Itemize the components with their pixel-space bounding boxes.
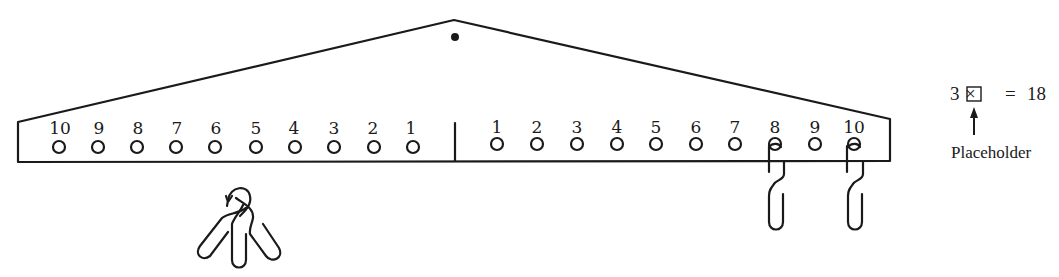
equation-equals: = — [1005, 83, 1016, 104]
right-label: 8 — [770, 117, 781, 137]
hole — [407, 141, 419, 153]
hole — [368, 141, 380, 153]
hook-group-left — [198, 188, 280, 267]
hole — [53, 141, 65, 153]
equation-factor: 3 — [950, 83, 960, 104]
left-arm-holes — [53, 141, 419, 153]
pivot-dot — [451, 33, 459, 41]
hole — [289, 141, 301, 153]
hole — [531, 138, 543, 150]
hole — [729, 138, 741, 150]
hole — [690, 138, 702, 150]
right-label: 3 — [572, 117, 583, 137]
hole — [250, 141, 262, 153]
hole — [491, 138, 503, 150]
left-label: 9 — [94, 118, 105, 138]
hole — [650, 138, 662, 150]
right-label: 10 — [843, 117, 865, 137]
left-label: 3 — [329, 118, 340, 138]
right-label: 2 — [532, 117, 543, 137]
left-label: 7 — [172, 118, 183, 138]
left-label: 8 — [133, 118, 144, 138]
right-label: 6 — [691, 117, 702, 137]
hole — [809, 138, 821, 150]
hole — [571, 138, 583, 150]
right-label: 4 — [612, 117, 623, 137]
equation: 3 × = 18 Placeholder — [950, 83, 1046, 162]
arrow-head — [970, 107, 978, 118]
hook-right-8 — [769, 144, 784, 230]
left-label: 1 — [406, 118, 417, 138]
number-balance-diagram: 10 9 8 7 6 5 4 3 2 1 1 2 3 4 5 6 7 8 9 1… — [0, 0, 1059, 277]
hole — [131, 141, 143, 153]
hole — [328, 141, 340, 153]
left-label: 4 — [289, 118, 300, 138]
hole — [209, 141, 221, 153]
placeholder-caption: Placeholder — [951, 143, 1032, 162]
hook-right-10 — [847, 144, 863, 230]
equation-result: 18 — [1027, 83, 1046, 104]
left-arm-labels: 10 9 8 7 6 5 4 3 2 1 — [49, 118, 416, 138]
hole — [170, 141, 182, 153]
right-label: 7 — [730, 117, 741, 137]
right-arm-holes — [491, 138, 860, 150]
right-arm-labels: 1 2 3 4 5 6 7 8 9 10 — [492, 117, 865, 137]
left-label: 5 — [251, 118, 262, 138]
left-label: 2 — [368, 118, 379, 138]
left-label: 6 — [211, 118, 222, 138]
right-label: 1 — [492, 117, 503, 137]
left-label: 10 — [49, 118, 71, 138]
hole — [92, 141, 104, 153]
hole — [611, 138, 623, 150]
right-label: 5 — [651, 117, 662, 137]
right-label: 9 — [810, 117, 821, 137]
